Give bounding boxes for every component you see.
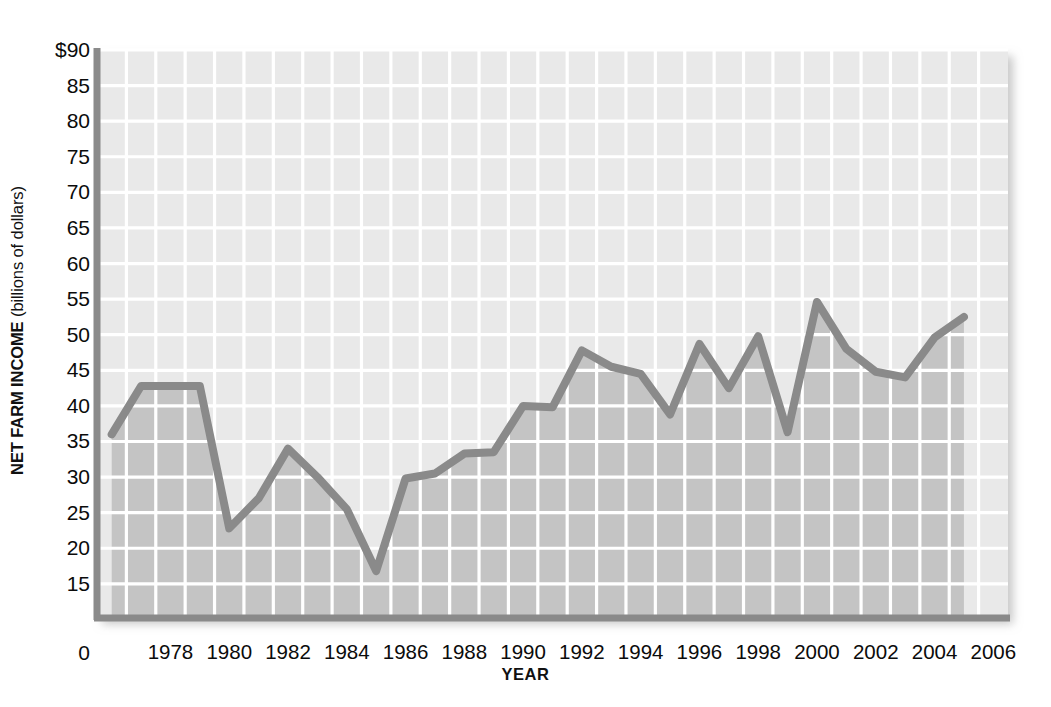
chart-figure: NET FARM INCOME (billions of dollars) $9… <box>0 0 1051 707</box>
chart-plot-area <box>0 0 1051 707</box>
